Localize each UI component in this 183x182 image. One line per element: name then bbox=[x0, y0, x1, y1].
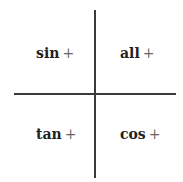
quadrant-2-label: sin+ bbox=[36, 46, 74, 60]
quadrant-4-label: cos+ bbox=[120, 127, 160, 141]
quadrant-1-sign: + bbox=[143, 45, 155, 61]
quadrant-4-sign: + bbox=[149, 126, 161, 142]
horizontal-axis bbox=[14, 93, 176, 95]
quadrant-2-function: sin bbox=[36, 45, 59, 61]
quadrant-4-function: cos bbox=[120, 126, 146, 142]
quadrant-3-sign: + bbox=[65, 126, 77, 142]
quadrant-3-label: tan+ bbox=[36, 127, 76, 141]
quadrant-3-function: tan bbox=[36, 126, 62, 142]
quadrant-1-label: all+ bbox=[120, 46, 154, 60]
quadrant-1-function: all bbox=[120, 45, 140, 61]
quadrant-2-sign: + bbox=[62, 45, 74, 61]
